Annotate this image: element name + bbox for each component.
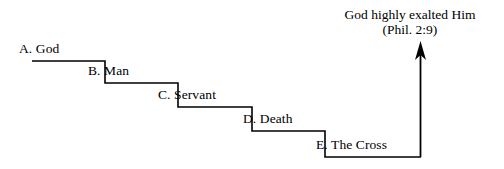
exaltation-caption: God highly exalted Him (Phil. 2:9) (326, 7, 494, 37)
step-label-death: D. Death (243, 112, 293, 126)
step-label-servant: C. Servant (158, 88, 216, 102)
step-label-god: A. God (19, 42, 59, 56)
exaltation-caption-line2: (Phil. 2:9) (326, 22, 494, 37)
descending-steps-diagram: God highly exalted Him (Phil. 2:9) A. Go… (0, 0, 504, 169)
step-label-the-cross: E. The Cross (316, 138, 387, 152)
exaltation-caption-line1: God highly exalted Him (326, 7, 494, 22)
step-label-man: B. Man (88, 64, 129, 78)
